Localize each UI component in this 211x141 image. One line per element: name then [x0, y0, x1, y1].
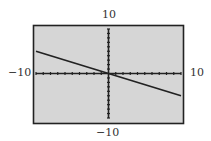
ymin-label: −10	[96, 126, 119, 139]
xmin-label: −10	[8, 66, 31, 79]
ymax-label: 10	[102, 8, 116, 21]
xmax-label: 10	[190, 66, 204, 79]
graph-window	[0, 0, 211, 141]
